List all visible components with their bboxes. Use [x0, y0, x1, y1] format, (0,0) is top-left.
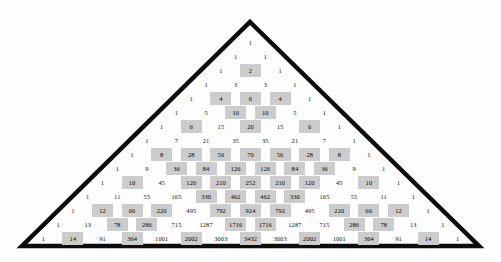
pascal-cell-odd: 3 [255, 78, 276, 91]
pascal-cell-even: 10 [255, 106, 276, 119]
pascal-cell-odd: 1 [107, 162, 128, 175]
pascal-cell-even: 10 [358, 176, 379, 189]
pascal-cell-odd: 1 [270, 64, 291, 77]
pascal-cell-even: 10 [225, 106, 246, 119]
pascal-row: 1126622049579292479249522066121 [0, 204, 501, 217]
pascal-cell-odd: 15 [270, 120, 291, 133]
pascal-cell-odd: 1 [151, 120, 172, 133]
pascal-cell-odd: 1 [255, 50, 276, 63]
pascal-cell-even: 14 [418, 232, 439, 245]
pascal-cell-odd: 1 [181, 92, 202, 105]
pascal-cell-even: 462 [225, 190, 246, 203]
pascal-cell-odd: 1 [77, 190, 98, 203]
pascal-cell-even: 84 [196, 162, 217, 175]
pascal-cell-even: 28 [299, 148, 320, 161]
pascal-cell-odd: 1 [136, 134, 157, 147]
pascal-cell-odd: 1 [240, 36, 261, 49]
pascal-cell-even: 286 [136, 218, 157, 231]
pascal-cell-odd: 1287 [284, 218, 305, 231]
pascal-cell-odd: 1 [432, 218, 453, 231]
pascal-cell-even: 66 [122, 204, 143, 217]
pascal-cell-odd: 495 [299, 204, 320, 217]
pascal-cell-even: 12 [388, 204, 409, 217]
pascal-cell-even: 220 [151, 204, 172, 217]
pascal-cell-even: 120 [299, 176, 320, 189]
pascal-cell-even: 792 [210, 204, 231, 217]
pascal-cell-odd: 1 [329, 120, 350, 133]
pascal-cell-odd: 1001 [329, 232, 350, 245]
pascal-cell-odd: 1 [33, 232, 54, 245]
pascal-cell-even: 6 [240, 92, 261, 105]
pascal-cell-even: 78 [107, 218, 128, 231]
pascal-cell-odd: 5 [196, 106, 217, 119]
pascal-cell-odd: 1001 [151, 232, 172, 245]
pascal-cell-odd: 1 [48, 218, 69, 231]
pascal-row: 172135352171 [0, 134, 501, 147]
pascal-cell-even: 6 [181, 120, 202, 133]
pascal-cell-even: 330 [196, 190, 217, 203]
pascal-rows-container: 1111211331146411510105116152015611721353… [0, 0, 501, 262]
pascal-cell-even: 84 [284, 162, 305, 175]
pascal-cell-even: 210 [210, 176, 231, 189]
pascal-cell-even: 56 [270, 148, 291, 161]
pascal-row: 1331 [0, 78, 501, 91]
pascal-cell-odd: 165 [166, 190, 187, 203]
pascal-cell-even: 8 [151, 148, 172, 161]
pascal-row: 1615201561 [0, 120, 501, 133]
pascal-cell-even: 14 [62, 232, 83, 245]
pascal-cell-odd: 91 [92, 232, 113, 245]
pascal-cell-odd: 3 [225, 78, 246, 91]
pascal-cell-odd: 495 [181, 204, 202, 217]
pascal-cell-even: 330 [284, 190, 305, 203]
pascal-cell-even: 3432 [240, 232, 261, 245]
pascal-cell-even: 1716 [255, 218, 276, 231]
pascal-cell-even: 286 [344, 218, 365, 231]
pascal-cell-odd: 1 [403, 190, 424, 203]
pascal-cell-even: 28 [181, 148, 202, 161]
pascal-row: 18285670562881 [0, 148, 501, 161]
pascal-cell-even: 10 [122, 176, 143, 189]
pascal-cell-even: 8 [329, 148, 350, 161]
pascal-cell-even: 2002 [299, 232, 320, 245]
pascal-cell-odd: 1 [373, 162, 394, 175]
pascal-cell-odd: 3003 [210, 232, 231, 245]
pascal-cell-odd: 1 [284, 78, 305, 91]
pascal-cell-odd: 1 [447, 232, 468, 245]
pascal-cell-odd: 1 [92, 176, 113, 189]
pascal-cell-odd: 1 [358, 148, 379, 161]
pascal-cell-even: 220 [329, 204, 350, 217]
pascal-cell-odd: 9 [136, 162, 157, 175]
pascal-row: 15101051 [0, 106, 501, 119]
pascal-cell-even: 2 [240, 64, 261, 77]
pascal-cell-even: 70 [240, 148, 261, 161]
pascal-cell-odd: 5 [284, 106, 305, 119]
pascal-cell-odd: 7 [314, 134, 335, 147]
pascal-cell-even: 78 [373, 218, 394, 231]
pascal-cell-even: 6 [299, 120, 320, 133]
pascal-cell-even: 210 [270, 176, 291, 189]
pascal-cell-odd: 91 [388, 232, 409, 245]
pascal-cell-odd: 3003 [270, 232, 291, 245]
pascal-row: 1149136410012002300334323003200210013649… [0, 232, 501, 245]
pascal-cell-odd: 1 [166, 106, 187, 119]
pascal-cell-odd: 1 [62, 204, 83, 217]
pascal-cell-odd: 1287 [196, 218, 217, 231]
pascal-cell-even: 66 [358, 204, 379, 217]
pascal-cell-odd: 7 [166, 134, 187, 147]
pascal-cell-even: 252 [240, 176, 261, 189]
pascal-cell-odd: 715 [166, 218, 187, 231]
pascal-cell-even: 56 [210, 148, 231, 161]
pascal-cell-odd: 1 [196, 78, 217, 91]
pascal-cell-even: 792 [270, 204, 291, 217]
pascal-cell-even: 4 [210, 92, 231, 105]
pascal-cell-even: 12 [92, 204, 113, 217]
pascal-cell-even: 120 [181, 176, 202, 189]
pascal-cell-odd: 1 [388, 176, 409, 189]
pascal-cell-odd: 9 [344, 162, 365, 175]
pascal-cell-even: 126 [255, 162, 276, 175]
pascal-cell-even: 1716 [225, 218, 246, 231]
pascal-row: 14641 [0, 92, 501, 105]
pascal-cell-odd: 11 [373, 190, 394, 203]
pascal-cell-odd: 55 [344, 190, 365, 203]
pascal-cell-odd: 165 [314, 190, 335, 203]
